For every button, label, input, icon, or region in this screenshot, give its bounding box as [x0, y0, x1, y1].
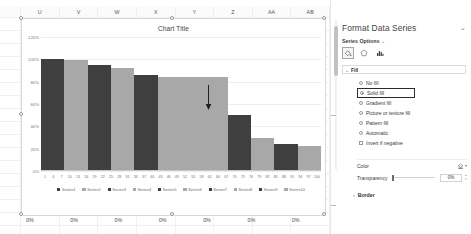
column-header-w[interactable]: W: [98, 7, 137, 17]
chart-resize-handle-top-center[interactable]: [170, 16, 174, 20]
legend-item[interactable]: Series10: [284, 187, 304, 192]
column-header-x[interactable]: X: [137, 7, 176, 17]
bar-series2[interactable]: [64, 60, 87, 171]
chart-resize-handle-top-left[interactable]: [19, 16, 23, 20]
column-header-u[interactable]: U: [21, 7, 60, 17]
x-axis-tick-label: 43: [156, 173, 164, 181]
column-header-aa[interactable]: AA: [253, 7, 292, 17]
bar-series4[interactable]: [111, 68, 134, 171]
y-axis-tick-label: 60%: [30, 102, 39, 107]
bar-series6[interactable]: [158, 77, 181, 171]
format-data-series-pane[interactable]: Format Data Series ⌄ Series Options ⌄: [330, 0, 471, 234]
chart-resize-handle-bottom-left[interactable]: [19, 212, 23, 216]
bar-series12[interactable]: [298, 146, 321, 171]
chart-legend[interactable]: Series1Series2Series3Series4Series5Serie…: [41, 185, 321, 194]
legend-item[interactable]: Series1: [57, 187, 75, 192]
scrollbar-thumb[interactable]: [334, 26, 338, 76]
bar-series-group[interactable]: [41, 37, 321, 171]
legend-item[interactable]: Series3: [108, 187, 126, 192]
bar-series9[interactable]: [228, 115, 251, 171]
column-header-corner[interactable]: [0, 7, 21, 17]
transparency-slider[interactable]: [392, 174, 435, 182]
fill-option-no-fill[interactable]: No fill: [357, 78, 467, 88]
radio-icon[interactable]: [359, 121, 363, 125]
x-axis-tick-label: 22: [99, 173, 107, 181]
spreadsheet-cell[interactable]: [0, 214, 20, 227]
fill-option-picture-or-texture-fill[interactable]: Picture or texture fill: [357, 108, 467, 118]
pane-scrollbar[interactable]: [334, 20, 338, 170]
y-axis-tick-label: 40%: [30, 124, 39, 129]
x-axis-tick-label: 73: [239, 173, 247, 181]
stepper-down-icon[interactable]: ▾: [465, 178, 467, 181]
column-header-v[interactable]: V: [60, 7, 99, 17]
chart-title[interactable]: Chart Title: [22, 25, 325, 32]
x-axis-tick-label: 91: [288, 173, 296, 181]
fill-option-pattern-fill[interactable]: Pattern fill: [357, 118, 467, 128]
pane-tab-icons[interactable]: [342, 45, 386, 60]
column-header-ab[interactable]: AB: [291, 7, 330, 17]
paint-bucket-icon[interactable]: [342, 47, 354, 59]
fill-option-label: Gradient fill: [366, 100, 391, 106]
radio-selected-icon[interactable]: [360, 91, 364, 95]
fill-options-list[interactable]: No fillSolid fillGradient fillPicture or…: [357, 78, 467, 148]
x-axis-tick-label: 4: [49, 173, 57, 181]
chart-resize-handle-top-right[interactable]: [322, 16, 326, 20]
plot-area[interactable]: [41, 37, 321, 171]
slider-thumb[interactable]: [392, 175, 394, 181]
x-axis-line: [41, 170, 321, 171]
radio-icon[interactable]: [359, 81, 363, 85]
chevron-down-icon[interactable]: ⌄: [345, 67, 349, 73]
bar-series3[interactable]: [88, 65, 111, 171]
series-options-selector[interactable]: Series Options ⌄: [342, 36, 385, 45]
legend-item[interactable]: Series6: [183, 187, 201, 192]
chevron-right-icon[interactable]: ›: [353, 192, 355, 198]
y-axis-tick-label: 0%: [33, 169, 39, 174]
legend-item[interactable]: Series4: [133, 187, 151, 192]
x-axis-tick-label: 49: [173, 173, 181, 181]
x-axis-tick-label: 52: [181, 173, 189, 181]
chevron-down-icon[interactable]: ▾: [465, 163, 467, 168]
column-header-y[interactable]: Y: [176, 7, 215, 17]
chart-resize-handle-bottom-center[interactable]: [170, 212, 174, 216]
chart-resize-handle-mid-left[interactable]: [19, 112, 23, 116]
radio-icon[interactable]: [359, 111, 363, 115]
bar-series7[interactable]: [181, 77, 204, 171]
radio-icon[interactable]: [359, 131, 363, 135]
fill-option-gradient-fill[interactable]: Gradient fill: [357, 98, 467, 108]
bar-series5[interactable]: [134, 75, 157, 171]
radio-icon[interactable]: [359, 101, 363, 105]
bar-chart-icon[interactable]: [374, 47, 386, 59]
slider-track[interactable]: [392, 177, 435, 178]
chart-resize-handle-bottom-right[interactable]: [322, 212, 326, 216]
bar-series10[interactable]: [251, 138, 274, 172]
legend-item[interactable]: Series7: [209, 187, 227, 192]
transparency-stepper[interactable]: ▴ ▾: [465, 174, 467, 181]
fill-option-solid-fill[interactable]: Solid fill: [357, 88, 415, 98]
legend-item[interactable]: Series8: [234, 187, 252, 192]
legend-swatch: [209, 188, 212, 191]
fill-option-invert-if-negative[interactable]: Invert if negative: [357, 138, 467, 148]
chart-object[interactable]: Chart Title 120%100%80%60%40%20%0% 14710…: [21, 18, 326, 216]
fill-section-header[interactable]: ⌄ Fill: [342, 65, 466, 74]
x-axis-tick-label: 34: [132, 173, 140, 181]
legend-item[interactable]: Series5: [158, 187, 176, 192]
border-section-header[interactable]: › Border: [353, 190, 463, 200]
fill-option-label: Pattern fill: [366, 120, 388, 126]
legend-item[interactable]: Series9: [259, 187, 277, 192]
chevron-down-icon[interactable]: ⌄: [460, 24, 466, 32]
color-row[interactable]: Color ▾: [357, 159, 467, 171]
bar-series1[interactable]: [41, 59, 64, 171]
chevron-down-icon[interactable]: ⌄: [381, 38, 385, 44]
fill-option-label: Invert if negative: [366, 140, 403, 146]
fill-color-picker[interactable]: ▾: [457, 162, 467, 169]
column-header-z[interactable]: Z: [214, 7, 253, 17]
x-axis-tick-label: 37: [140, 173, 148, 181]
pentagon-effects-icon[interactable]: [358, 47, 370, 59]
bar-series11[interactable]: [274, 144, 297, 171]
transparency-row[interactable]: Transparency 0% ▴ ▾: [357, 172, 467, 183]
legend-item[interactable]: Series2: [82, 187, 100, 192]
fill-option-automatic[interactable]: Automatic: [357, 128, 467, 138]
legend-swatch: [259, 188, 262, 191]
checkbox-icon[interactable]: [359, 141, 363, 145]
transparency-value-input[interactable]: 0%: [440, 174, 462, 182]
